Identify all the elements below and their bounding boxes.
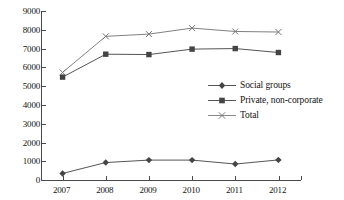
- data-point-diamond-icon: [59, 170, 65, 176]
- y-tick-label: 6000: [6, 63, 40, 72]
- data-point-square-icon: [103, 51, 108, 56]
- x-tick-label: 2011: [214, 186, 254, 195]
- series-line: [63, 49, 279, 78]
- data-point-square-icon: [276, 50, 281, 55]
- data-point-diamond-icon: [189, 157, 195, 163]
- data-point-diamond-icon: [103, 159, 109, 165]
- x-tick-label: 2012: [258, 186, 298, 195]
- legend-label: Social groups: [240, 80, 291, 91]
- y-axis-tick-labels: 9000 8000 7000 6000 5000 4000 3000 2000 …: [0, 0, 40, 200]
- legend-marker-cross-icon: [207, 108, 237, 123]
- data-point-square-icon: [60, 74, 65, 79]
- data-point-diamond-icon: [275, 157, 281, 163]
- series-social-groups: [59, 157, 281, 177]
- data-point-square-icon: [146, 52, 151, 57]
- chart-legend: Social groups Private, non-corporate Tot…: [207, 78, 344, 123]
- series-line: [63, 28, 279, 72]
- data-point-diamond-icon: [146, 157, 152, 163]
- legend-item-total: Total: [207, 108, 344, 123]
- data-point-square-icon: [189, 46, 194, 51]
- y-tick-label: 3000: [6, 120, 40, 129]
- legend-label: Private, non-corporate: [240, 95, 323, 106]
- x-tick-label: 2010: [171, 186, 211, 195]
- data-point-diamond-icon: [232, 161, 238, 167]
- legend-marker-diamond-icon: [207, 78, 237, 93]
- line-chart: 9000 8000 7000 6000 5000 4000 3000 2000 …: [0, 0, 344, 200]
- y-tick-label: 2000: [6, 139, 40, 148]
- x-tick-label: 2009: [128, 186, 168, 195]
- series-private-non-corporate: [60, 46, 281, 80]
- legend-label: Total: [240, 110, 259, 121]
- y-tick-label: 1000: [6, 157, 40, 166]
- series-line: [63, 160, 279, 174]
- legend-item-social-groups: Social groups: [207, 78, 344, 93]
- y-tick-label: 9000: [6, 7, 40, 16]
- y-tick-label: 5000: [6, 82, 40, 91]
- y-tick-label: 0: [6, 176, 40, 185]
- y-tick-label: 4000: [6, 101, 40, 110]
- legend-marker-square-icon: [207, 93, 237, 108]
- y-tick-label: 8000: [6, 26, 40, 35]
- x-axis-line: [41, 180, 301, 181]
- series-total: [60, 25, 282, 75]
- legend-item-private-non-corporate: Private, non-corporate: [207, 93, 344, 108]
- x-tick-label: 2007: [42, 186, 82, 195]
- x-tick-mark: [301, 176, 302, 180]
- data-point-square-icon: [233, 46, 238, 51]
- y-tick-label: 7000: [6, 45, 40, 54]
- x-tick-label: 2008: [85, 186, 125, 195]
